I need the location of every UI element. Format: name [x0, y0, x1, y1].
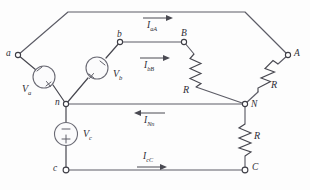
terminal-B[interactable]	[181, 39, 186, 44]
source-a-label: Va	[22, 84, 31, 97]
circuit-diagram-canvas: a b c n A B C N Va Vb Vc R R R IaA IbB I…	[0, 0, 310, 190]
terminal-A[interactable]	[285, 52, 290, 57]
terminal-N[interactable]	[242, 101, 247, 106]
current-aA-label: IaA	[147, 21, 157, 32]
source-a-subscript: a	[28, 89, 31, 96]
current-Nn-arrowhead	[134, 110, 141, 116]
node-label-N: N	[251, 100, 257, 110]
wire-resistor-bB-to-N	[196, 87, 245, 104]
current-bB-subscript: bB	[147, 65, 154, 72]
node-label-n: n	[55, 98, 60, 108]
node-label-A: A	[294, 49, 300, 59]
current-aA-subscript: aA	[150, 25, 157, 32]
source-c-label: Vc	[83, 129, 92, 142]
terminal-a[interactable]	[15, 52, 20, 57]
wire-b-to-source-b	[106, 42, 120, 58]
resistor-cC-symbol	[239, 124, 251, 156]
current-aA-arrowhead	[166, 15, 173, 21]
node-label-C: C	[252, 163, 258, 173]
resistor-bB-label: R	[183, 85, 189, 95]
node-label-B: B	[181, 29, 187, 39]
resistor-aA-label: R	[271, 80, 277, 90]
current-cC-arrowhead	[160, 164, 167, 170]
source-a-symbol	[33, 66, 55, 88]
terminal-C[interactable]	[242, 167, 248, 173]
terminal-c[interactable]	[63, 167, 69, 173]
resistor-cC-label: R	[254, 131, 260, 141]
current-bB-arrowhead	[163, 55, 170, 61]
current-cC-label: IcC	[143, 152, 153, 163]
node-label-b: b	[117, 30, 122, 40]
current-cC-subscript: cC	[146, 156, 153, 163]
current-bB-label: IbB	[144, 61, 154, 72]
source-b-subscript: b	[119, 74, 122, 81]
wire-source-b-to-n	[66, 78, 88, 104]
source-b-symbol	[86, 57, 108, 79]
current-Nn-subscript: Nn	[147, 120, 154, 127]
wire-a-to-source-a	[18, 55, 36, 70]
source-b-label: Vb	[113, 69, 122, 82]
terminal-n[interactable]	[63, 101, 68, 106]
resistor-bB-symbol	[190, 54, 201, 87]
node-label-a: a	[6, 49, 11, 59]
source-c-subscript: c	[89, 134, 92, 141]
current-Nn-label: INn	[144, 116, 154, 127]
terminal-b[interactable]	[117, 39, 122, 44]
node-label-c: c	[53, 164, 57, 174]
